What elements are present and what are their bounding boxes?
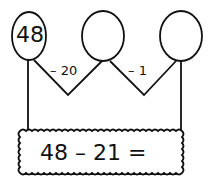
step-label-2: – 1 xyxy=(128,63,147,78)
circle-end xyxy=(160,11,202,61)
circle-middle xyxy=(82,11,124,61)
equation-text: 48 – 21 = xyxy=(40,140,146,165)
step-label-1: – 20 xyxy=(50,63,77,78)
circle-start-label: 48 xyxy=(16,22,44,47)
